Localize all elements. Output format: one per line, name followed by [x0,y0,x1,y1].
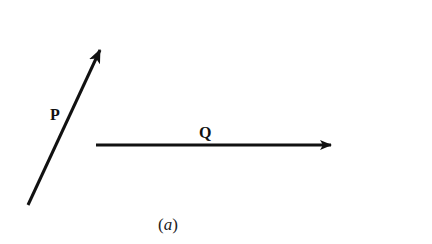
vector-p: P [28,50,100,205]
vector-diagram: P Q (a) [0,0,432,244]
vector-p-arrow [28,50,100,205]
caption-letter: a [164,215,173,234]
vector-p-label: P [50,106,60,123]
vector-q-label: Q [199,124,211,141]
vector-q: Q [96,124,331,145]
caption-close-paren: ) [172,215,178,234]
figure-caption: (a) [158,215,178,234]
